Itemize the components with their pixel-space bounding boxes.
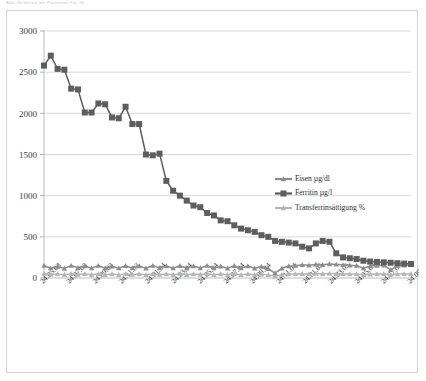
data-point[interactable] xyxy=(109,114,115,120)
series-line xyxy=(44,56,411,264)
data-point[interactable] xyxy=(150,263,155,268)
data-point[interactable] xyxy=(292,240,298,246)
data-point[interactable] xyxy=(143,152,149,158)
y-tick-label: 500 xyxy=(24,232,38,242)
data-point[interactable] xyxy=(258,232,264,238)
data-point[interactable] xyxy=(157,151,163,157)
data-point[interactable] xyxy=(197,204,203,210)
data-point[interactable] xyxy=(136,121,142,127)
data-point[interactable] xyxy=(89,110,95,116)
data-point[interactable] xyxy=(299,244,305,250)
data-point[interactable] xyxy=(245,263,250,268)
data-point[interactable] xyxy=(245,227,251,233)
data-point[interactable] xyxy=(95,100,101,106)
data-point[interactable] xyxy=(163,178,169,184)
data-point[interactable] xyxy=(354,256,360,262)
x-tick-label: 24.11.03 xyxy=(117,261,142,286)
data-point[interactable] xyxy=(306,245,312,251)
data-point[interactable] xyxy=(333,250,339,256)
legend-swatch-marker xyxy=(281,191,287,197)
x-tick-label: 24.01.04 xyxy=(143,261,168,286)
chart-plot-area: 05001000150020002500300024.05.0324.07.03… xyxy=(7,11,419,374)
y-tick-label: 3000 xyxy=(19,26,38,36)
data-point[interactable] xyxy=(394,260,400,266)
data-point[interactable] xyxy=(68,86,74,92)
legend-label: Transferrinsättigung % xyxy=(295,203,366,212)
data-point[interactable] xyxy=(82,110,88,116)
data-point[interactable] xyxy=(129,121,135,127)
data-point[interactable] xyxy=(313,240,319,246)
y-tick-label: 2000 xyxy=(19,109,38,119)
data-point[interactable] xyxy=(150,152,156,158)
data-point[interactable] xyxy=(177,193,183,199)
y-tick-label: 1000 xyxy=(19,191,38,201)
data-point[interactable] xyxy=(170,188,176,194)
data-point[interactable] xyxy=(41,63,47,69)
data-point[interactable] xyxy=(252,229,258,235)
data-point[interactable] xyxy=(102,101,108,107)
data-point[interactable] xyxy=(225,218,231,224)
data-point[interactable] xyxy=(381,259,387,265)
data-point[interactable] xyxy=(211,212,217,218)
data-point[interactable] xyxy=(320,238,326,244)
data-point[interactable] xyxy=(340,254,346,260)
legend-item[interactable]: Eisen µg/dl xyxy=(275,174,330,183)
data-point[interactable] xyxy=(184,198,190,204)
data-point[interactable] xyxy=(41,263,46,268)
data-point[interactable] xyxy=(347,255,353,261)
data-point[interactable] xyxy=(61,67,67,73)
legend-item[interactable]: Transferrinsättigung % xyxy=(275,203,366,212)
data-point[interactable] xyxy=(96,263,101,268)
y-tick-label: 0 xyxy=(33,273,38,283)
data-point[interactable] xyxy=(286,240,292,246)
data-point[interactable] xyxy=(388,260,394,266)
data-point[interactable] xyxy=(238,226,244,232)
data-point[interactable] xyxy=(279,239,285,245)
data-point[interactable] xyxy=(204,210,210,216)
data-point[interactable] xyxy=(48,53,54,59)
data-point[interactable] xyxy=(123,263,128,268)
data-point[interactable] xyxy=(374,259,380,265)
data-point[interactable] xyxy=(401,261,407,267)
x-tick-label: 24.09.04 xyxy=(248,261,273,286)
legend-label: Eisen µg/dl xyxy=(295,174,330,183)
data-point[interactable] xyxy=(75,86,81,92)
y-tick-label: 2500 xyxy=(19,67,38,77)
data-point[interactable] xyxy=(116,115,122,121)
figure-caption: Abb. 2b Verlauf der Parameter Pat. 2b xyxy=(6,0,84,5)
data-point[interactable] xyxy=(123,104,129,110)
data-point[interactable] xyxy=(326,239,332,245)
y-tick-label: 1500 xyxy=(19,150,38,160)
series-2 xyxy=(41,53,414,267)
data-point[interactable] xyxy=(218,217,224,223)
chart-frame: 05001000150020002500300024.05.0324.07.03… xyxy=(6,10,418,373)
data-point[interactable] xyxy=(360,258,366,264)
data-point[interactable] xyxy=(55,66,61,72)
legend-label: Ferritin µg/l xyxy=(295,188,332,197)
legend-item[interactable]: Ferritin µg/l xyxy=(275,188,332,197)
line-chart: 05001000150020002500300024.05.0324.07.03… xyxy=(7,11,419,374)
data-point[interactable] xyxy=(68,263,73,268)
data-point[interactable] xyxy=(265,234,271,240)
data-point[interactable] xyxy=(408,261,414,267)
data-point[interactable] xyxy=(231,222,237,228)
data-point[interactable] xyxy=(272,238,278,244)
data-point[interactable] xyxy=(367,259,373,265)
data-point[interactable] xyxy=(191,203,197,209)
